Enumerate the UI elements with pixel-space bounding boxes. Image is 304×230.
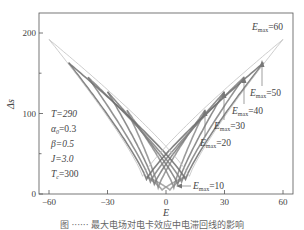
param-beta: β=0.5 — [50, 139, 74, 149]
label-emax-30: Emax=30 — [213, 121, 245, 132]
y-tick-0: 0 — [32, 189, 37, 199]
hysteresis-chart: 0 100 200 Δs −60 −30 0 30 60 E T=290 α0=… — [0, 0, 304, 230]
x-tick-30: 30 — [220, 197, 230, 207]
label-emax-10: Emax=10 — [192, 181, 224, 192]
y-tick-200: 200 — [23, 28, 37, 38]
x-tick-neg30: −30 — [100, 197, 115, 207]
figure-caption: 图 ······ 最大电场对电卡效应中电滞回线的影响 — [0, 218, 304, 230]
param-J: J=3.0 — [51, 154, 74, 164]
x-axis — [49, 190, 283, 194]
x-tick-neg60: −60 — [42, 197, 57, 207]
plot-frame — [39, 13, 293, 194]
label-emax-40: Emax=40 — [231, 106, 263, 117]
y-axis — [39, 33, 43, 194]
y-axis-label: Δs — [5, 99, 16, 110]
x-tick-0: 0 — [164, 197, 169, 207]
label-emax-20: Emax=20 — [199, 138, 231, 149]
y-tick-100: 100 — [23, 109, 37, 119]
x-tick-60: 60 — [279, 197, 289, 207]
x-axis-label: E — [162, 207, 169, 218]
param-T: T=290 — [51, 109, 77, 119]
param-alpha: α0=0.3 — [51, 124, 76, 135]
label-emax-60: Emax=60 — [251, 22, 283, 33]
param-Tc: Tc=300 — [51, 169, 79, 180]
label-emax-50: Emax=50 — [249, 88, 281, 99]
